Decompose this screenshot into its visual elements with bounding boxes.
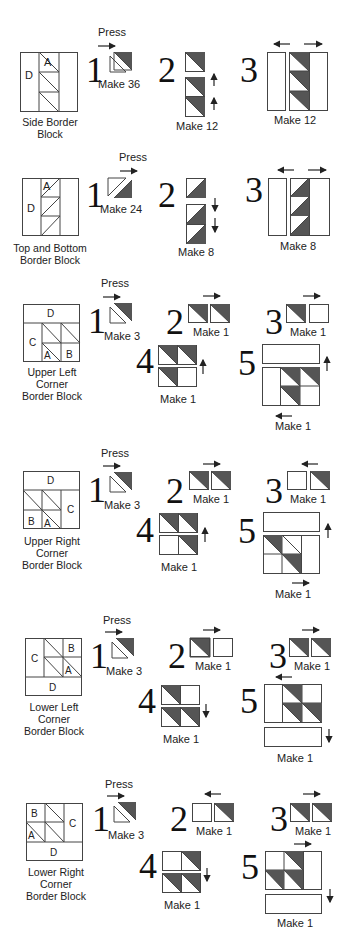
step-number: 2 bbox=[158, 177, 176, 213]
hst-column-diagram bbox=[185, 52, 207, 118]
svg-text:D: D bbox=[27, 202, 35, 214]
block-label-line: Border Block bbox=[8, 254, 92, 266]
svg-text:C: C bbox=[29, 337, 36, 348]
press-label: Press bbox=[101, 277, 129, 289]
step-number: 3 bbox=[269, 638, 287, 674]
make-count: Make 1 bbox=[290, 326, 326, 338]
press-label: Press bbox=[98, 26, 126, 38]
make-count: Make 3 bbox=[106, 665, 142, 677]
press-arrow-right-icon bbox=[203, 628, 223, 632]
svg-text:D: D bbox=[50, 847, 57, 858]
top-bottom-border-block-diagram: AD bbox=[22, 178, 80, 238]
svg-text:A: A bbox=[43, 180, 51, 192]
block-label-line: Corner bbox=[16, 713, 92, 725]
make-count: Make 1 bbox=[193, 493, 229, 505]
press-arrow-up-icon bbox=[203, 526, 207, 544]
press-arrow-left-icon bbox=[274, 675, 294, 679]
hst-plain-square-row bbox=[286, 304, 330, 324]
svg-text:B: B bbox=[28, 516, 35, 527]
step-number: 2 bbox=[166, 304, 184, 340]
press-label: Press bbox=[101, 447, 129, 459]
make-count: Make 1 bbox=[193, 326, 229, 338]
make-count: Make 36 bbox=[98, 78, 140, 90]
block-label-line: Side Border bbox=[14, 116, 86, 128]
make-count: Make 1 bbox=[163, 733, 199, 745]
step-number: 5 bbox=[240, 683, 258, 719]
half-square-triangle-pair bbox=[108, 52, 134, 74]
step-number: 5 bbox=[241, 849, 259, 885]
assembled-corner-unit-diagram bbox=[263, 512, 323, 578]
step-number: 2 bbox=[170, 801, 188, 837]
svg-text:B: B bbox=[66, 349, 73, 360]
press-arrow-left-right-icon bbox=[276, 168, 332, 172]
assembled-corner-unit-diagram bbox=[265, 851, 325, 917]
lower-right-corner-block-diagram: BACD bbox=[26, 803, 84, 863]
block-label-line: Block bbox=[14, 128, 86, 140]
make-count: Make 1 bbox=[277, 917, 313, 929]
press-arrow-left-right-icon bbox=[272, 42, 328, 46]
step-number: 3 bbox=[270, 801, 288, 837]
press-arrow-right-icon bbox=[98, 44, 118, 48]
four-patch-unit-diagram bbox=[161, 685, 201, 729]
hst-column-diagram bbox=[186, 178, 208, 244]
svg-text:A: A bbox=[44, 56, 52, 68]
four-patch-unit-diagram bbox=[159, 513, 199, 557]
make-count: Make 1 bbox=[294, 660, 330, 672]
svg-text:D: D bbox=[25, 69, 33, 81]
block-label-line: Lower Left bbox=[16, 701, 92, 713]
make-count: Make 8 bbox=[178, 246, 214, 258]
svg-text:A: A bbox=[28, 830, 35, 841]
svg-text:A: A bbox=[65, 665, 72, 676]
press-arrow-up-icon bbox=[201, 358, 205, 376]
block-label-line: Upper Right bbox=[14, 535, 90, 547]
press-arrow-down-icon bbox=[327, 727, 331, 745]
make-count: Make 3 bbox=[104, 499, 140, 511]
make-count: Make 1 bbox=[277, 752, 313, 764]
half-square-triangle-pair bbox=[110, 472, 134, 494]
half-square-triangle-pair bbox=[110, 303, 134, 325]
press-arrow-down-icon bbox=[328, 887, 332, 905]
press-arrow-up-icon bbox=[325, 355, 329, 373]
step-number: 3 bbox=[265, 304, 283, 340]
svg-text:D: D bbox=[47, 308, 54, 319]
svg-text:A: A bbox=[44, 518, 51, 529]
svg-text:B: B bbox=[31, 808, 38, 819]
press-arrow-down-icon bbox=[213, 196, 217, 236]
step-number: 2 bbox=[168, 638, 186, 674]
press-arrow-left-icon bbox=[274, 414, 294, 418]
press-arrow-right-icon bbox=[107, 794, 127, 798]
step-number: 4 bbox=[136, 512, 154, 548]
step-number: 4 bbox=[138, 683, 156, 719]
svg-text:C: C bbox=[69, 818, 76, 829]
hst-row-diagram bbox=[188, 304, 232, 324]
make-count: Make 3 bbox=[104, 330, 140, 342]
step-number: 4 bbox=[136, 343, 154, 379]
half-square-triangle-pair bbox=[114, 802, 138, 824]
svg-text:D: D bbox=[47, 475, 54, 486]
block-label-line: Corner bbox=[18, 878, 94, 890]
plain-square-hst-row bbox=[287, 471, 331, 491]
half-square-triangle-pair bbox=[108, 178, 134, 200]
make-count: Make 12 bbox=[274, 114, 316, 126]
press-arrow-right-icon bbox=[303, 294, 323, 298]
press-arrow-right-icon bbox=[292, 581, 312, 585]
press-arrow-right-icon bbox=[105, 630, 125, 634]
make-count: Make 24 bbox=[100, 203, 142, 215]
hst-row-diagram bbox=[189, 471, 233, 491]
step-number: 3 bbox=[240, 52, 258, 88]
make-count: Make 1 bbox=[196, 825, 232, 837]
make-count: Make 1 bbox=[195, 660, 231, 672]
press-arrow-right-icon bbox=[103, 464, 123, 468]
step-number: 3 bbox=[245, 172, 263, 208]
hst-row-diagram bbox=[290, 803, 334, 823]
upper-left-corner-block-diagram: DCAB bbox=[23, 304, 81, 364]
step-number: 3 bbox=[265, 473, 283, 509]
step-number: 2 bbox=[158, 52, 176, 88]
press-label: Press bbox=[119, 151, 147, 163]
press-arrow-left-icon bbox=[300, 462, 320, 466]
plain-square-hst-row bbox=[192, 803, 236, 823]
svg-text:D: D bbox=[49, 682, 56, 693]
svg-text:C: C bbox=[31, 653, 38, 664]
make-count: Make 8 bbox=[280, 240, 316, 252]
step-number: 5 bbox=[238, 345, 256, 381]
